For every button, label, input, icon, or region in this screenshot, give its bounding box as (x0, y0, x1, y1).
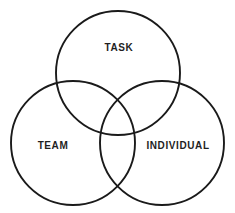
venn-diagram-canvas: TASK TEAM INDIVIDUAL (0, 0, 235, 213)
diagram-background (0, 0, 235, 213)
label-team: TEAM (38, 140, 69, 151)
venn-diagram-svg: TASK TEAM INDIVIDUAL (0, 0, 235, 213)
label-task: TASK (105, 42, 134, 53)
label-individual: INDIVIDUAL (146, 140, 209, 151)
